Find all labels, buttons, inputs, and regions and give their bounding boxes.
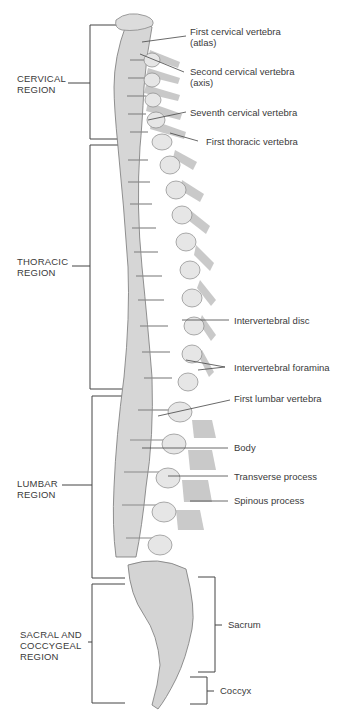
region-label-thoracic: THORACICREGION	[17, 256, 68, 278]
label-coccyx: Coccyx	[220, 685, 251, 696]
region-label-sacral-coccygeal: SACRAL ANDCOCCYGEALREGION	[20, 629, 82, 662]
label-intervertebral-disc: Intervertebral disc	[234, 315, 310, 326]
label-first-lumbar-vertebra: First lumbar vertebra	[234, 393, 322, 404]
label-first-thoracic-vertebra: First thoracic vertebra	[206, 136, 298, 147]
label-seventh-cervical-vertebra: Seventh cervical vertebra	[190, 107, 297, 118]
label-second-cervical-vertebra: Second cervical vertebra(axis)	[190, 66, 295, 88]
label-intervertebral-foramina: Intervertebral foramina	[234, 362, 330, 373]
region-label-lumbar: LUMBARREGION	[17, 478, 58, 500]
label-body: Body	[234, 442, 256, 453]
label-transverse-process: Transverse process	[234, 471, 317, 482]
label-sacrum: Sacrum	[228, 619, 261, 630]
region-label-cervical: CERVICALREGION	[17, 73, 66, 95]
label-first-cervical-vertebra: First cervical vertebra(atlas)	[190, 26, 281, 48]
sacrum	[128, 561, 193, 709]
label-spinous-process: Spinous process	[234, 495, 304, 506]
